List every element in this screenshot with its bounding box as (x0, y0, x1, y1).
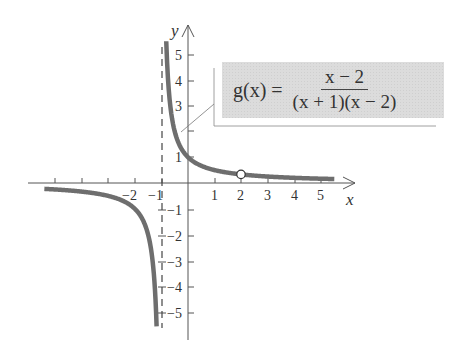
svg-text:3: 3 (264, 188, 271, 203)
function-graph: −2 −1 1 2 3 4 5 5 4 3 1 −1 −2 −3 −4 −5 x… (0, 0, 463, 360)
y-axis-label: y (169, 21, 179, 40)
formula-denominator: (x + 1)(x − 2) (291, 90, 399, 114)
label-pointer-line (181, 104, 214, 132)
function-label-box: g(x) = x − 2 (x + 1)(x − 2) (222, 62, 444, 118)
svg-text:−1: −1 (167, 203, 182, 218)
svg-text:−4: −4 (167, 280, 182, 295)
formula-lhs: g(x) = (233, 79, 283, 102)
svg-text:1: 1 (175, 150, 182, 165)
formula-fraction: x − 2 (x + 1)(x − 2) (291, 66, 399, 114)
svg-text:3: 3 (175, 99, 182, 114)
y-ticks (158, 55, 194, 313)
svg-text:−1: −1 (148, 188, 163, 203)
svg-text:−5: −5 (167, 306, 182, 321)
curve-left-branch (44, 189, 156, 326)
svg-text:−2: −2 (167, 229, 182, 244)
hole-open-circle (237, 170, 245, 178)
svg-text:1: 1 (211, 188, 218, 203)
svg-text:−3: −3 (167, 255, 182, 270)
x-tick-labels: −2 −1 1 2 3 4 5 (122, 188, 324, 203)
svg-text:4: 4 (291, 188, 298, 203)
svg-text:5: 5 (317, 188, 324, 203)
svg-text:2: 2 (237, 188, 244, 203)
svg-text:5: 5 (175, 48, 182, 63)
svg-text:4: 4 (175, 74, 182, 89)
formula-numerator: x − 2 (321, 66, 368, 90)
x-axis-label: x (345, 190, 354, 209)
